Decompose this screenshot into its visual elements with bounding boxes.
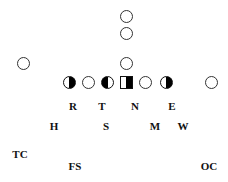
offense-symbol-center-square-icon bbox=[120, 76, 133, 89]
offense-symbol-quarterback-circle-icon bbox=[120, 57, 133, 70]
offense-symbol-deep-back-1-circle-icon bbox=[120, 10, 133, 23]
defense-label-h: H bbox=[50, 121, 59, 132]
defense-label-m: M bbox=[150, 121, 160, 132]
offense-symbol-right-tackle-circle-icon bbox=[160, 76, 173, 89]
offense-symbol-left-guard-circle-icon bbox=[82, 76, 95, 89]
defense-label-s: S bbox=[103, 121, 109, 132]
defense-label-fs: FS bbox=[69, 161, 82, 172]
offense-symbol-wide-receiver-right-circle-icon bbox=[205, 76, 218, 89]
defense-label-oc: OC bbox=[201, 161, 218, 172]
offense-symbol-split-end-left-circle-icon bbox=[17, 57, 30, 70]
offense-symbol-right-guard-circle-icon bbox=[139, 76, 152, 89]
offense-symbol-left-inner-circle-icon bbox=[101, 76, 114, 89]
offense-symbol-deep-back-2-circle-icon bbox=[120, 27, 133, 40]
defense-label-r: R bbox=[69, 101, 77, 112]
defense-label-t: T bbox=[98, 101, 105, 112]
defense-label-tc: TC bbox=[12, 149, 27, 160]
offense-symbol-left-tackle-circle-icon bbox=[63, 76, 76, 89]
defense-label-n: N bbox=[131, 101, 139, 112]
defense-label-e: E bbox=[168, 101, 175, 112]
defense-label-w: W bbox=[178, 121, 189, 132]
